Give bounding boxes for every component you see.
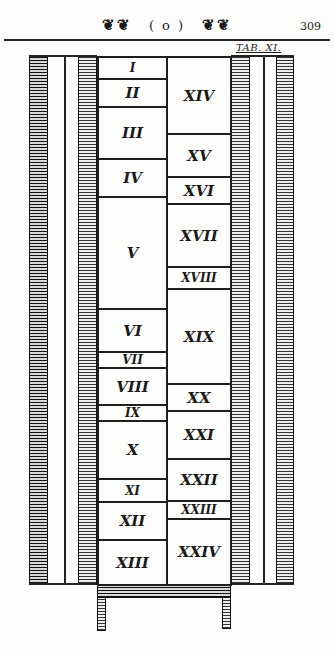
right-inner-line xyxy=(263,56,265,584)
cell-xi: XI xyxy=(97,478,168,503)
header-ornament: ❦❦ ( o ) ❦❦ xyxy=(0,16,334,34)
cell-xxi: XXI xyxy=(166,410,232,460)
cell-i: I xyxy=(97,56,168,80)
cell-xvii: XVII xyxy=(166,203,232,268)
left-frame-bottom xyxy=(29,583,97,585)
right-frame-bottom xyxy=(231,583,294,585)
ornament-mid: ( o ) xyxy=(149,18,185,33)
ornament-right: ❦❦ xyxy=(202,16,232,34)
cell-x: X xyxy=(97,420,168,480)
right-outer-hatch xyxy=(276,56,294,584)
cell-viii: VIII xyxy=(97,367,168,406)
header-rule xyxy=(4,39,330,41)
cell-xix: XIX xyxy=(166,288,232,385)
left-frame-top xyxy=(29,55,97,57)
right-frame-top xyxy=(231,55,294,57)
base-bar xyxy=(97,584,231,598)
base-leg-left xyxy=(97,597,106,631)
page-number: 309 xyxy=(300,20,321,33)
cell-xxiv: XXIV xyxy=(166,518,232,586)
ornament-left: ❦❦ xyxy=(102,16,132,34)
cell-xii: XII xyxy=(97,501,168,541)
cell-xv: XV xyxy=(166,133,232,178)
cell-iii: III xyxy=(97,106,168,160)
cell-xxiii: XXIII xyxy=(166,500,232,520)
left-inner-hatch xyxy=(78,56,97,584)
cell-xiii: XIII xyxy=(97,539,168,586)
plate-label: TAB. XI. xyxy=(236,42,281,53)
left-outer-hatch xyxy=(29,56,48,584)
cell-xiv: XIV xyxy=(166,56,232,135)
cell-xviii: XVIII xyxy=(166,266,232,290)
cell-xvi: XVI xyxy=(166,176,232,205)
right-inner-hatch xyxy=(231,56,250,584)
left-inner-line xyxy=(64,56,66,584)
base-leg-right xyxy=(222,597,231,629)
cell-v: V xyxy=(97,196,168,310)
cell-xxii: XXII xyxy=(166,458,232,502)
cell-vi: VI xyxy=(97,308,168,353)
cell-ii: II xyxy=(97,78,168,108)
cell-xx: XX xyxy=(166,383,232,412)
cell-iv: IV xyxy=(97,158,168,198)
